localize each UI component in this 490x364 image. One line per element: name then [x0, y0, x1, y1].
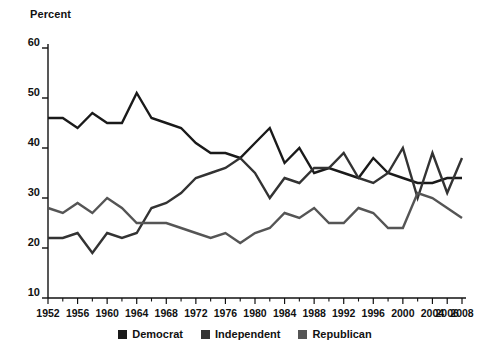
- x-axis-tick-label: 1952: [36, 307, 60, 319]
- x-axis-tick-label: 1984: [273, 307, 297, 319]
- x-axis-tick-label: 1972: [184, 307, 208, 319]
- y-axis-tick-label: 10: [28, 286, 40, 298]
- legend-swatch-republican: [298, 330, 307, 339]
- legend-item-democrat: Democrat: [118, 328, 183, 340]
- legend-swatch-democrat: [118, 330, 127, 339]
- legend-label-independent: Independent: [215, 328, 280, 340]
- legend-label-republican: Republican: [312, 328, 371, 340]
- legend-item-republican: Republican: [298, 328, 371, 340]
- x-axis-tick-label: 1996: [362, 307, 386, 319]
- x-axis-tick-label: 2008: [450, 307, 474, 319]
- x-axis-tick-label: 1956: [66, 307, 90, 319]
- y-axis-tick-label: 20: [28, 236, 40, 248]
- x-axis-tick-label: 1976: [214, 307, 238, 319]
- x-axis-tick-label: 1988: [302, 307, 326, 319]
- y-axis-tick-label: 40: [28, 136, 40, 148]
- legend-swatch-independent: [201, 330, 210, 339]
- x-axis-tick-label: 1992: [332, 307, 356, 319]
- chart-legend: Democrat Independent Republican: [0, 328, 490, 340]
- series-line-democrat: [48, 93, 462, 183]
- x-axis-tick-label: 1980: [243, 307, 267, 319]
- y-axis-tick-label: 60: [28, 36, 40, 48]
- series-line-republican: [48, 193, 462, 243]
- x-axis-tick-label: 1960: [95, 307, 119, 319]
- chart-plot-area: 1020304050601952195619601964196819721976…: [0, 0, 490, 364]
- legend-label-democrat: Democrat: [132, 328, 183, 340]
- x-axis-tick-label: 2000: [391, 307, 415, 319]
- x-axis-tick-label: 1968: [155, 307, 179, 319]
- y-axis-tick-label: 30: [28, 186, 40, 198]
- chart-container: Percent 10203040506019521956196019641968…: [0, 0, 490, 364]
- x-axis-tick-label: 1964: [125, 307, 149, 319]
- legend-item-independent: Independent: [201, 328, 280, 340]
- y-axis-tick-label: 50: [28, 86, 40, 98]
